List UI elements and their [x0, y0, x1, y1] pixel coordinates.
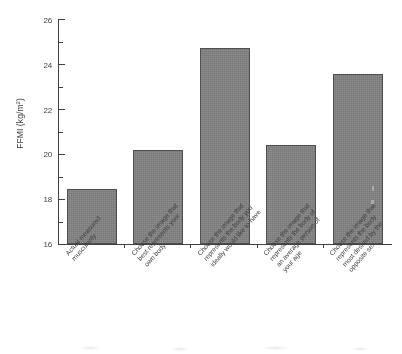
- x-category-label-2-line-1: represents the body you: [202, 193, 265, 263]
- x-category-label-0: Actual measured muscularity: [64, 196, 125, 263]
- x-category-label-4: Choose the image that represents the bod…: [328, 190, 402, 274]
- x-category-label-3: Choose the image that represents the bod…: [262, 190, 341, 274]
- ffmi-bar-chart-figure: 26 24 22 20 18 16 FFMI (kg/m2) Actual me…: [0, 0, 402, 354]
- scan-bottom-smudge: [60, 345, 380, 352]
- scan-speck-1: [372, 186, 374, 191]
- x-axis-category-labels: Actual measured muscularity Choose the i…: [0, 0, 402, 354]
- x-category-label-1: Choose the image that best represents yo…: [130, 192, 202, 269]
- scan-speck-2: [371, 200, 374, 204]
- x-category-label-1-line-1: best represents your: [136, 197, 195, 263]
- x-category-label-0-line-0: Actual measured: [64, 196, 119, 257]
- x-category-label-0-line-1: muscularity: [70, 202, 125, 263]
- x-category-label-2: Choose the image that represents the bod…: [196, 187, 271, 268]
